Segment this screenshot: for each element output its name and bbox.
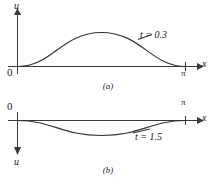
origin-label-a: 0 [7, 67, 13, 78]
x-axis-label-a: x [202, 59, 206, 69]
panel-caption-a: (a) [0, 82, 216, 91]
origin-label-b: 0 [7, 101, 13, 112]
curve-annotation-b: t = 1.5 [135, 132, 162, 142]
u-axis-label-a: u [14, 1, 19, 11]
panel-b: 0 π x u t = 1.5 (b) [0, 96, 216, 184]
u-axis-arrowhead-b [14, 147, 21, 155]
panel-caption-b: (b) [0, 166, 216, 175]
x-axis-label-b: x [202, 113, 206, 123]
pi-tick-label-b: π [181, 98, 186, 107]
panel-a: u x 0 π t = 0.3 (a) [0, 0, 216, 96]
curve-annotation-a: t = 0.3 [140, 30, 167, 40]
figure-root: u x 0 π t = 0.3 (a) 0 π x u t = 1.5 (b) [0, 0, 216, 184]
pi-tick-label-a: π [181, 69, 186, 78]
